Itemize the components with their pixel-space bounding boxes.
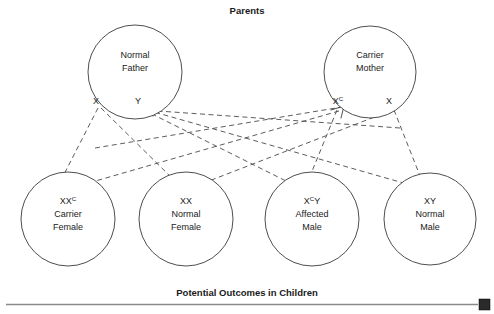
- mother-allele-xc-superscript: C: [339, 95, 344, 102]
- child-node-carrier-female[interactable]: XXC Carrier Female: [21, 172, 115, 266]
- parents-heading: Parents: [230, 5, 265, 16]
- link-mother-x-to-normal-female: [196, 111, 390, 186]
- normal-father-title-line2: Father: [122, 63, 148, 73]
- child-node-affected-male[interactable]: XCY Affected Male: [265, 172, 359, 266]
- children-group: XXC Carrier Female XX Normal Female XCY …: [21, 172, 476, 266]
- carrier-female-circle[interactable]: [21, 172, 115, 266]
- genetics-inheritance-diagram: Parents: [0, 0, 494, 314]
- potential-outcomes-heading: Potential Outcomes in Children: [176, 287, 318, 298]
- father-allele-y: Y: [135, 96, 141, 106]
- parent-node-carrier-mother[interactable]: Carrier Mother XC X: [324, 26, 416, 118]
- carrier-mother-title-line1: Carrier: [356, 50, 384, 60]
- normal-male-desc-line2: Male: [420, 222, 440, 232]
- affected-male-desc-line1: Affected: [296, 209, 329, 219]
- parent-node-normal-father[interactable]: Normal Father X Y: [88, 25, 182, 119]
- normal-female-genotype: XX: [180, 196, 192, 206]
- affected-male-desc-line2: Male: [302, 222, 322, 232]
- normal-female-circle[interactable]: [139, 172, 233, 266]
- affected-male-circle[interactable]: [265, 172, 359, 266]
- child-node-normal-female[interactable]: XX Normal Female: [139, 172, 233, 266]
- parents-group: Normal Father X Y Carrier Mother XC X: [88, 25, 416, 119]
- normal-male-genotype: XY: [424, 196, 436, 206]
- normal-father-title-line1: Normal: [120, 50, 149, 60]
- normal-male-circle[interactable]: [384, 173, 476, 265]
- resize-handle-square[interactable]: [479, 299, 490, 310]
- normal-female-desc-line1: Normal: [171, 209, 200, 219]
- father-allele-x: X: [93, 96, 99, 106]
- diagram-canvas: Parents: [0, 0, 494, 314]
- link-father-y-to-affected-male: [144, 110, 296, 186]
- carrier-female-desc-line2: Female: [53, 222, 83, 232]
- carrier-female-desc-line1: Carrier: [54, 209, 82, 219]
- carrier-female-genotype-base: XX: [60, 196, 72, 206]
- normal-male-desc-line1: Normal: [415, 209, 444, 219]
- inheritance-links: [58, 107, 424, 186]
- link-father-x-to-normal-female: [101, 108, 180, 186]
- normal-female-desc-line2: Female: [171, 222, 201, 232]
- carrier-mother-title-line2: Mother: [356, 63, 384, 73]
- carrier-female-genotype-superscript: C: [72, 195, 77, 202]
- mother-allele-x: X: [386, 96, 392, 106]
- affected-male-genotype-tail: Y: [314, 196, 320, 206]
- child-node-normal-male[interactable]: XY Normal Male: [384, 173, 476, 265]
